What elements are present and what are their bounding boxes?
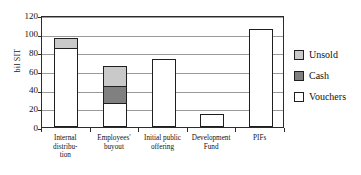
legend-swatch-cash — [294, 71, 304, 81]
x-axis-tick-labels: Internaldistribu-tionEmployees'buyoutIni… — [41, 134, 284, 174]
bar-group — [152, 15, 176, 127]
bar-group — [103, 15, 127, 127]
plot-area — [41, 16, 284, 128]
y-axis-tick-label: 0 — [12, 124, 38, 133]
x-axis-tick-mark — [41, 128, 42, 132]
y-axis-tick-label: 40 — [12, 86, 38, 95]
y-axis-tick-label: 80 — [12, 49, 38, 58]
y-axis-tick-label: 120 — [12, 12, 38, 21]
bar-stack[interactable] — [200, 114, 224, 127]
bar-segment-unsold[interactable] — [55, 39, 77, 47]
x-axis-tick-mark — [235, 128, 236, 132]
bar-segment-vouchers[interactable] — [250, 30, 272, 126]
bar-segment-vouchers[interactable] — [201, 115, 223, 126]
x-axis-tick-label: PIFs — [231, 134, 288, 143]
bar-segment-vouchers[interactable] — [55, 48, 77, 126]
y-axis-tick-labels: 020406080100120 — [12, 16, 38, 128]
legend-label: Vouchers — [309, 92, 346, 102]
bar-segment-cash[interactable] — [104, 86, 126, 103]
bar-segment-unsold[interactable] — [104, 67, 126, 86]
bar-stack[interactable] — [152, 59, 176, 127]
bars-layer — [42, 17, 283, 127]
x-axis-tick-label-line: Fund — [183, 143, 240, 152]
x-axis-tick-mark — [90, 128, 91, 132]
y-axis-tick-label: 20 — [12, 105, 38, 114]
legend-swatch-vouchers — [294, 92, 304, 102]
legend-swatch-unsold — [294, 50, 304, 60]
bar-chart: bil SIT 020406080100120 Internaldistribu… — [0, 0, 361, 175]
chart-legend: UnsoldCashVouchers — [294, 44, 360, 107]
legend-item-unsold[interactable]: Unsold — [294, 44, 360, 65]
y-axis-tick-label: 60 — [12, 68, 38, 77]
x-axis-tick-label-line: tion — [37, 151, 94, 160]
bar-group — [249, 15, 273, 127]
bar-stack[interactable] — [54, 38, 78, 127]
x-axis-tick-mark — [284, 128, 285, 132]
x-axis-tick-label-line: PIFs — [231, 134, 288, 143]
x-axis-tick-marks — [41, 128, 284, 132]
legend-label: Unsold — [309, 50, 338, 60]
bar-stack[interactable] — [249, 29, 273, 127]
bar-group — [54, 15, 78, 127]
legend-item-cash[interactable]: Cash — [294, 65, 360, 86]
x-axis-tick-mark — [138, 128, 139, 132]
x-axis-tick-mark — [187, 128, 188, 132]
legend-label: Cash — [309, 71, 329, 81]
bar-group — [200, 15, 224, 127]
bar-stack[interactable] — [103, 66, 127, 127]
bar-segment-vouchers[interactable] — [104, 103, 126, 126]
legend-item-vouchers[interactable]: Vouchers — [294, 86, 360, 107]
bar-segment-vouchers[interactable] — [153, 60, 175, 126]
y-axis-tick-label: 100 — [12, 30, 38, 39]
